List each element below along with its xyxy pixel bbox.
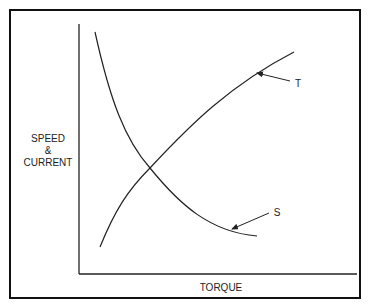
t-arrow — [257, 73, 290, 81]
s-label: S — [272, 207, 282, 219]
y-label-line1: SPEED — [18, 133, 78, 145]
s-arrow — [232, 213, 269, 229]
y-axis-label: SPEED & CURRENT — [18, 133, 78, 169]
y-label-line2: & — [18, 145, 78, 157]
t-curve — [100, 52, 294, 247]
s-curve — [95, 32, 257, 236]
x-axis-label: TORQUE — [191, 282, 251, 294]
t-label: T — [293, 78, 303, 90]
y-label-line3: CURRENT — [18, 157, 78, 169]
